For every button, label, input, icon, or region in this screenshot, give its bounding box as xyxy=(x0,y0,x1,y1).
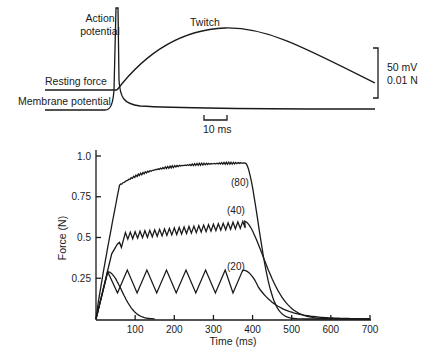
scale-ms-label: 10 ms xyxy=(203,123,232,135)
membrane-potential-label: Membrane potential xyxy=(18,95,111,107)
x-tick-label: 700 xyxy=(362,324,379,335)
y-tick-label: 0.75 xyxy=(72,191,92,202)
action-potential-label-2: potential xyxy=(80,25,120,37)
y-tick-label: 0.25 xyxy=(72,273,92,284)
scale-n-label: 0.01 N xyxy=(387,74,418,86)
twitch-label: Twitch xyxy=(190,16,220,28)
series-20-curve xyxy=(96,270,370,319)
resting-force-label: Resting force xyxy=(45,75,107,87)
x-tick-label: 300 xyxy=(205,324,222,335)
single-twitch-curve xyxy=(96,272,155,319)
series-label-40: (40) xyxy=(227,205,245,216)
twitch-panel: Action potential Twitch Resting force Me… xyxy=(18,8,418,135)
x-tick-label: 200 xyxy=(166,324,183,335)
scale-mv-label: 50 mV xyxy=(387,61,417,73)
x-tick-label: 100 xyxy=(127,324,144,335)
y-tick-label: 0.5 xyxy=(77,232,91,243)
x-tick-label: 500 xyxy=(283,324,300,335)
x-tick-label: 600 xyxy=(323,324,340,335)
x-tick-label: 400 xyxy=(244,324,261,335)
series-label-20: (20) xyxy=(227,261,245,272)
time-scale-bar xyxy=(204,115,227,120)
action-potential-label-1: Action xyxy=(85,12,114,24)
x-axis-label: Time (ms) xyxy=(210,335,257,347)
vertical-scale-bar xyxy=(373,48,378,98)
y-axis-label: Force (N) xyxy=(56,216,68,260)
y-tick-label: 1.0 xyxy=(77,151,91,162)
twitch-curve xyxy=(117,28,375,90)
tetanus-panel: 0.250.50.751.0 100200300400500600700 Tim… xyxy=(56,150,379,347)
series-label-80: (80) xyxy=(231,177,249,188)
chart-canvas: Action potential Twitch Resting force Me… xyxy=(0,0,432,358)
